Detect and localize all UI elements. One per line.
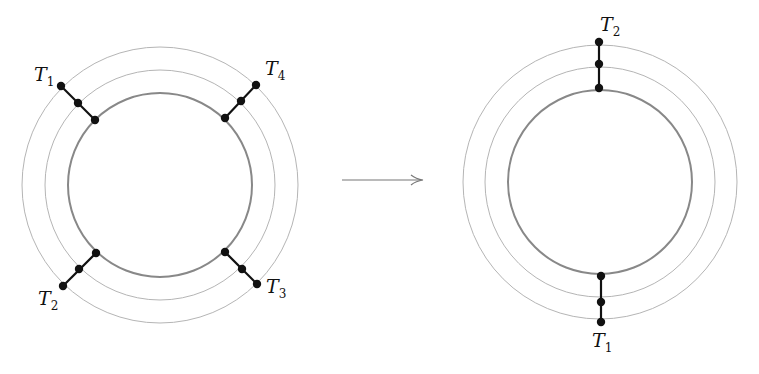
- tentacle-t3: [221, 248, 261, 288]
- tentacle-t2-top: [595, 38, 603, 92]
- right-annulus-diagram: T2 T1: [463, 13, 737, 355]
- label-t1: T1: [34, 63, 54, 89]
- label-t1: T1: [592, 329, 612, 355]
- left-annulus-diagram: T1 T4 T2 T3: [22, 47, 298, 323]
- diagram-canvas: T1 T4 T2 T3 T2 T1: [0, 0, 759, 374]
- label-t3: T3: [266, 275, 286, 301]
- inner-circle: [508, 90, 692, 274]
- tentacle-t1-bottom: [597, 272, 605, 326]
- middle-circle: [485, 67, 715, 297]
- label-t2: T2: [38, 287, 58, 313]
- label-t4: T4: [265, 57, 286, 83]
- tentacle-t2: [59, 249, 100, 290]
- tentacle-t1: [57, 82, 99, 124]
- label-t2: T2: [600, 13, 620, 39]
- transform-arrow: [342, 175, 423, 185]
- tentacle-t4: [221, 81, 260, 122]
